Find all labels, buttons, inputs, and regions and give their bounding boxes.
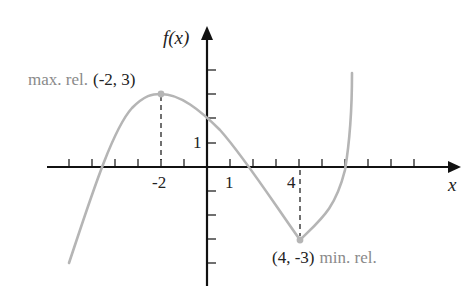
x-axis-arrow-icon <box>448 161 461 173</box>
y-axis-arrow-icon <box>201 26 213 40</box>
min-label-word: min. rel. <box>320 248 377 267</box>
max-annotation: max. rel. (-2, 3) <box>28 70 136 89</box>
x-axis-label: x <box>448 175 456 194</box>
graph-canvas <box>0 0 472 296</box>
max-label-coords: (-2, 3) <box>93 70 135 89</box>
min-label-coords: (4, -3) <box>272 248 314 267</box>
tick-label-4: 4 <box>287 174 296 191</box>
tick-label-x1: 1 <box>225 174 234 191</box>
tick-label-y1: 1 <box>193 134 202 151</box>
min-point <box>297 237 304 244</box>
max-label-word: max. rel. <box>28 70 88 89</box>
y-axis-label: f(x) <box>163 28 189 47</box>
x-ticks <box>69 159 414 167</box>
min-annotation: (4, -3) min. rel. <box>272 248 377 267</box>
tick-label-neg2: -2 <box>152 174 166 191</box>
max-point <box>158 91 165 98</box>
